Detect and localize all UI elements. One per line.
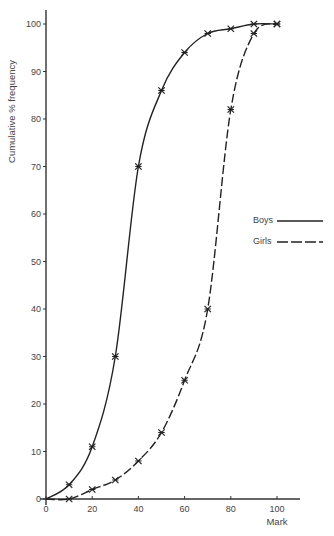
x-tick-label: 60 [180,504,190,514]
x-tick-label: 20 [87,504,97,514]
y-tick-label: 0 [36,494,41,504]
x-axis-title: Mark [266,516,287,527]
x-tick-label: 100 [269,504,284,514]
x-tick-label: 40 [133,504,143,514]
y-tick-label: 100 [26,19,41,29]
girls-curve [46,24,277,500]
legend-boys-label: Boys [253,215,274,225]
legend-girls-label: Girls [253,236,272,246]
y-tick-label: 80 [31,114,41,124]
x-tick-label: 0 [43,504,48,514]
y-tick-label: 60 [31,209,41,219]
x-tick-label: 80 [226,504,236,514]
y-tick-label: 90 [31,67,41,77]
boys-curve [46,24,277,499]
y-axis-title: Cumulative % frequency [6,60,17,163]
y-tick-label: 10 [31,447,41,457]
cumulative-frequency-chart: 0102030405060708090100020406080100MarkCu… [0,0,334,536]
y-tick-label: 20 [31,399,41,409]
y-tick-label: 40 [31,304,41,314]
y-tick-label: 50 [31,257,41,267]
y-tick-label: 30 [31,352,41,362]
y-tick-label: 70 [31,162,41,172]
